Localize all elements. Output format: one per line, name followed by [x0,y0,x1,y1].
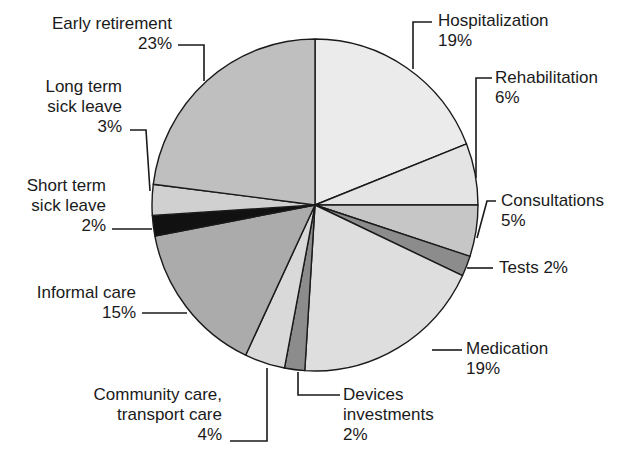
label-long-term-line1: Long term [45,77,122,97]
label-short-term-line2: sick leave [27,196,106,216]
label-community-line2: transport care [94,405,222,425]
label-devices-line2: investments [343,405,434,425]
label-tests: Tests 2% [499,258,568,278]
label-consultations-pct: 5% [501,211,604,231]
label-rehabilitation-name: Rehabilitation [495,68,598,88]
pie-slices [152,39,478,371]
label-devices-line1: Devices [343,385,434,405]
label-early-name: Early retirement [52,14,172,34]
label-community-pct: 4% [94,425,222,445]
label-informal-pct: 15% [37,303,136,323]
label-short-term-line1: Short term [27,176,106,196]
label-consultations-name: Consultations [501,191,604,211]
label-long-term-pct: 3% [45,117,122,137]
label-rehabilitation: Rehabilitation 6% [495,68,598,108]
label-short-term-pct: 2% [27,216,106,236]
label-medication-name: Medication [466,339,548,359]
label-early-pct: 23% [52,34,172,54]
label-consultations: Consultations 5% [501,191,604,231]
label-long-term-line2: sick leave [45,97,122,117]
label-tests-text: Tests 2% [499,258,568,278]
label-devices-investments: Devices investments 2% [343,385,434,445]
label-community-care: Community care, transport care 4% [94,385,222,445]
label-informal-care: Informal care 15% [37,283,136,323]
label-hospitalization-name: Hospitalization [438,11,549,31]
label-hospitalization-pct: 19% [438,31,549,51]
label-medication: Medication 19% [466,339,548,379]
label-rehabilitation-pct: 6% [495,88,598,108]
label-short-term-sick-leave: Short term sick leave 2% [27,176,106,236]
label-long-term-sick-leave: Long term sick leave 3% [45,77,122,137]
pie-slice-early-retirement [153,39,315,205]
label-hospitalization: Hospitalization 19% [438,11,549,51]
label-devices-pct: 2% [343,425,434,445]
label-informal-name: Informal care [37,283,136,303]
label-medication-pct: 19% [466,359,548,379]
label-early-retirement: Early retirement 23% [52,14,172,54]
label-community-line1: Community care, [94,385,222,405]
